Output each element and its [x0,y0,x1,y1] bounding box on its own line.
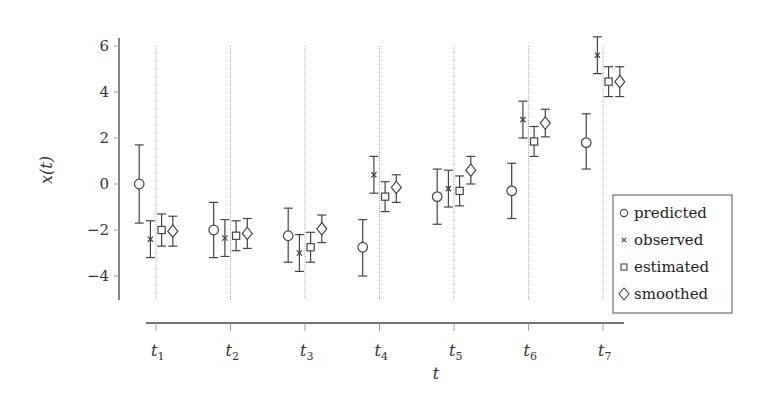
circle-marker [209,225,219,235]
legend-label: observed [634,231,704,249]
x-tick-label: t4 [375,341,388,363]
square-marker [456,187,463,194]
x-tick-label: t2 [226,341,239,363]
circle-marker [507,186,517,196]
x-axis-label: t [433,364,440,383]
legend-label: predicted [634,204,707,222]
y-tick-label: 2 [99,129,109,147]
y-tick-label: −4 [87,267,109,285]
x-tick-label: t7 [598,341,611,363]
x-axis: t1t2t3t4t5t6t7 [146,323,624,363]
y-axis-label: x(t) [37,156,56,184]
x-tick-label: t5 [449,341,462,363]
diamond-marker [317,223,327,235]
diamond-marker [168,225,178,237]
square-marker [531,138,538,145]
chart: 6420−2−4 t1t2t3t4t5t6t7 predictedobserve… [0,0,765,406]
circle-marker [134,179,144,189]
legend-item-predicted: predicted [620,204,707,222]
square-marker [233,232,240,239]
diamond-marker [391,181,401,193]
y-tick-label: 4 [99,83,109,101]
y-tick-label: 6 [99,37,109,55]
legend-item-observed: observed [622,231,704,249]
diamond-marker [242,227,252,239]
x-tick-label: t3 [300,341,313,363]
circle-marker [358,242,368,252]
circle-marker [283,231,293,241]
square-marker [158,226,165,233]
y-axis: 6420−2−4 [87,37,119,300]
diamond-marker [540,117,550,129]
square-marker [382,193,389,200]
square-icon [621,264,627,270]
y-tick-label: 0 [99,175,109,193]
series-estimated [157,67,613,263]
circle-marker [432,192,442,202]
diamond-marker [466,164,476,176]
circle-icon [620,209,627,216]
diamond-marker [615,75,625,87]
legend-label: estimated [634,258,709,276]
square-marker [605,78,612,85]
x-tick-label: t1 [151,341,164,363]
circle-marker [581,138,591,148]
legend-label: smoothed [634,285,709,303]
y-tick-label: −2 [87,221,109,239]
legend-item-estimated: estimated [621,258,709,276]
x-tick-label: t6 [524,341,537,363]
square-marker [307,244,314,251]
legend: predictedobservedestimatedsmoothed [613,195,732,313]
vertical-gridlines [156,46,603,300]
